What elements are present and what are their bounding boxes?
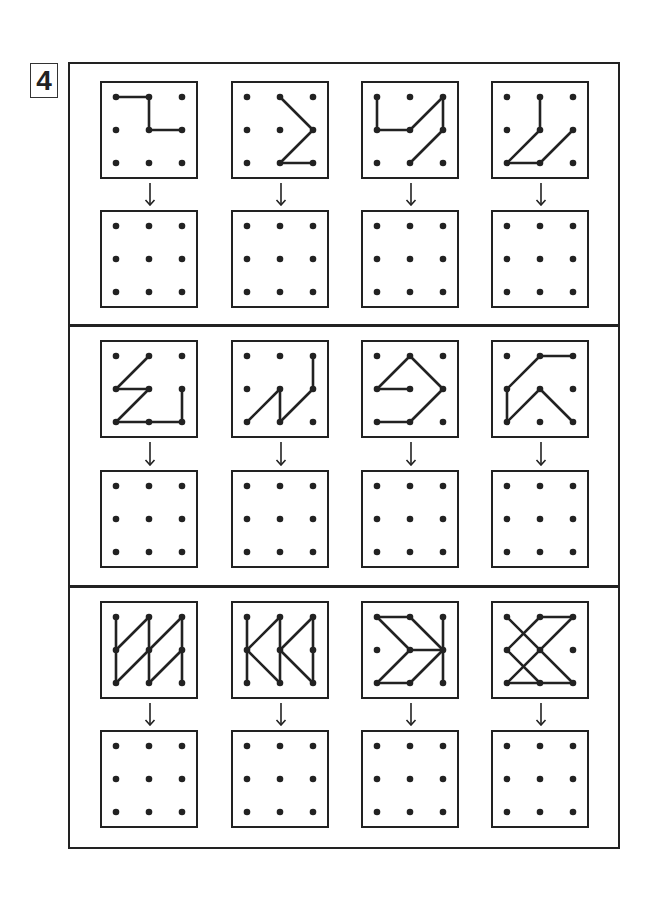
grid-dot — [570, 289, 577, 296]
grid-dot — [504, 386, 511, 393]
answer-grid[interactable] — [360, 469, 460, 569]
answer-grid[interactable] — [490, 729, 590, 829]
grid-dot — [407, 419, 414, 426]
pattern-grid — [490, 600, 590, 700]
grid-dot — [277, 223, 284, 230]
grid-dot — [277, 419, 284, 426]
grid-dot — [113, 647, 120, 654]
grid-dot — [146, 614, 153, 621]
grid-dot — [407, 94, 414, 101]
arrow-down-icon — [535, 703, 547, 726]
grid-dot — [570, 160, 577, 167]
grid-dot — [244, 516, 251, 523]
grid-dot — [146, 743, 153, 750]
grid-dot — [244, 160, 251, 167]
grid-dot — [570, 353, 577, 360]
grid-dot — [113, 127, 120, 134]
grid-dot — [504, 256, 511, 263]
grid-dot — [537, 256, 544, 263]
grid-dot — [113, 223, 120, 230]
grid-dot — [113, 386, 120, 393]
grid-dot — [504, 160, 511, 167]
grid-dot — [179, 516, 186, 523]
grid-dot — [146, 289, 153, 296]
answer-grid[interactable] — [230, 469, 330, 569]
grid-dot — [440, 647, 447, 654]
grid-dot — [407, 614, 414, 621]
arrow-down-icon — [144, 442, 156, 466]
grid-dot — [146, 256, 153, 263]
grid-dot — [310, 419, 317, 426]
grid-dot — [310, 549, 317, 556]
pattern-grid — [99, 339, 199, 439]
grid-dot — [244, 614, 251, 621]
grid-dot — [440, 256, 447, 263]
grid-dot — [146, 160, 153, 167]
grid-dot — [310, 94, 317, 101]
grid-dot — [537, 483, 544, 490]
grid-dot — [277, 353, 284, 360]
answer-grid[interactable] — [99, 729, 199, 829]
grid-dot — [113, 516, 120, 523]
grid-dot — [113, 809, 120, 816]
grid-dot — [277, 516, 284, 523]
grid-dot — [407, 256, 414, 263]
grid-dot — [440, 776, 447, 783]
grid-dot — [374, 256, 381, 263]
grid-dot — [310, 289, 317, 296]
grid-dot — [537, 647, 544, 654]
grid-dot — [407, 289, 414, 296]
grid-dot — [374, 809, 381, 816]
grid-dot — [277, 127, 284, 134]
grid-dot — [244, 353, 251, 360]
arrow-down-icon — [144, 703, 156, 726]
grid-dot — [374, 94, 381, 101]
answer-grid[interactable] — [490, 469, 590, 569]
grid-dot — [570, 516, 577, 523]
grid-dot — [244, 680, 251, 687]
grid-dot — [179, 353, 186, 360]
grid-dot — [244, 776, 251, 783]
grid-dot — [407, 223, 414, 230]
grid-dot — [440, 680, 447, 687]
grid-dot — [310, 483, 317, 490]
answer-grid[interactable] — [99, 469, 199, 569]
grid-dot — [537, 680, 544, 687]
grid-dot — [179, 614, 186, 621]
grid-dot — [244, 94, 251, 101]
grid-dot — [113, 160, 120, 167]
grid-dot — [277, 94, 284, 101]
grid-dot — [244, 223, 251, 230]
grid-dot — [537, 549, 544, 556]
grid-dot — [113, 549, 120, 556]
grid-dot — [277, 483, 284, 490]
grid-dot — [504, 776, 511, 783]
answer-grid[interactable] — [360, 729, 460, 829]
grid-dot — [146, 809, 153, 816]
grid-dot — [179, 549, 186, 556]
answer-grid[interactable] — [99, 209, 199, 309]
answer-grid[interactable] — [490, 209, 590, 309]
grid-dot — [374, 386, 381, 393]
grid-dot — [244, 483, 251, 490]
grid-dot — [310, 223, 317, 230]
grid-dot — [407, 549, 414, 556]
grid-dot — [310, 516, 317, 523]
grid-dot — [277, 256, 284, 263]
grid-dot — [179, 386, 186, 393]
grid-dot — [146, 386, 153, 393]
grid-dot — [440, 614, 447, 621]
answer-grid[interactable] — [360, 209, 460, 309]
pattern-grid — [360, 600, 460, 700]
grid-dot — [244, 647, 251, 654]
grid-dot — [113, 680, 120, 687]
grid-dot — [537, 386, 544, 393]
answer-grid[interactable] — [230, 209, 330, 309]
answer-grid[interactable] — [230, 729, 330, 829]
grid-dot — [374, 549, 381, 556]
grid-dot — [310, 353, 317, 360]
grid-dot — [537, 160, 544, 167]
grid-dot — [146, 776, 153, 783]
grid-dot — [244, 256, 251, 263]
grid-dot — [440, 127, 447, 134]
